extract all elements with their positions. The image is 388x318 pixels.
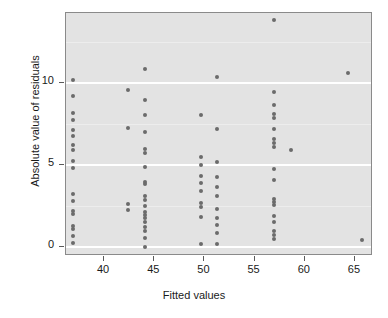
data-point <box>215 194 219 198</box>
x-tick-mark <box>304 256 305 261</box>
y-tick-mark <box>59 82 64 83</box>
data-point <box>143 229 147 233</box>
data-point <box>71 111 75 115</box>
data-point <box>143 204 147 208</box>
gridline-minor <box>66 124 371 125</box>
data-point <box>199 189 203 193</box>
data-point <box>215 216 219 220</box>
y-tick-mark <box>59 164 64 165</box>
data-point <box>71 227 75 231</box>
data-point <box>199 174 203 178</box>
data-point <box>272 145 276 149</box>
data-point <box>71 212 75 216</box>
data-point <box>143 67 147 71</box>
x-tick-label: 60 <box>284 263 324 275</box>
data-point <box>199 113 203 117</box>
data-point <box>143 130 147 134</box>
data-point <box>71 234 75 238</box>
data-point <box>272 103 276 107</box>
gridline-major <box>66 82 371 84</box>
data-point <box>126 208 130 212</box>
data-point <box>143 225 147 229</box>
data-point <box>143 151 147 155</box>
data-point <box>71 118 75 122</box>
x-tick-label: 50 <box>183 263 223 275</box>
data-point <box>215 185 219 189</box>
data-point <box>143 198 147 202</box>
data-point <box>71 241 75 245</box>
data-point <box>71 199 75 203</box>
data-point <box>289 148 293 152</box>
gridline-minor <box>66 42 371 43</box>
data-point <box>143 245 147 249</box>
gridline-major <box>66 246 371 248</box>
data-point <box>215 231 219 235</box>
data-point <box>71 134 75 138</box>
x-axis-label: Fitted values <box>0 289 388 301</box>
x-tick-mark <box>153 256 154 261</box>
data-point <box>71 143 75 147</box>
data-point <box>199 163 203 167</box>
x-tick-label: 55 <box>234 263 274 275</box>
data-point <box>71 148 75 152</box>
data-point <box>215 127 219 131</box>
x-tick-mark <box>203 256 204 261</box>
data-point <box>71 192 75 196</box>
data-point <box>215 207 219 211</box>
gridline-major <box>66 164 371 166</box>
scatter-plot-figure: 4045505560650510 Fitted values Absolute … <box>0 0 388 318</box>
data-point <box>272 127 276 131</box>
x-tick-mark <box>354 256 355 261</box>
data-point <box>126 126 130 130</box>
plot-panel <box>65 12 372 255</box>
data-point <box>272 18 276 22</box>
data-point <box>272 116 276 120</box>
data-point <box>199 181 203 185</box>
data-point <box>143 236 147 240</box>
data-point <box>71 94 75 98</box>
data-point <box>71 128 75 132</box>
data-point <box>272 90 276 94</box>
data-point <box>272 178 276 182</box>
y-axis-label: Absolute value of residuals <box>29 1 41 241</box>
data-point <box>346 71 350 75</box>
data-point <box>143 165 147 169</box>
data-point <box>272 214 276 218</box>
data-point <box>215 75 219 79</box>
data-point <box>71 159 75 163</box>
x-tick-label: 45 <box>133 263 173 275</box>
data-point <box>272 167 276 171</box>
data-point <box>272 220 276 224</box>
data-point <box>71 166 75 170</box>
data-point <box>143 98 147 102</box>
data-point <box>215 223 219 227</box>
x-tick-mark <box>103 256 104 261</box>
data-point <box>272 203 276 207</box>
data-point <box>215 175 219 179</box>
data-point <box>272 237 276 241</box>
x-tick-label: 40 <box>83 263 123 275</box>
data-point <box>360 238 364 242</box>
data-point <box>199 205 203 209</box>
x-tick-label: 65 <box>334 263 374 275</box>
y-tick-mark <box>59 246 64 247</box>
data-point <box>126 88 130 92</box>
data-point <box>143 220 147 224</box>
x-tick-mark <box>254 256 255 261</box>
data-point <box>199 155 203 159</box>
data-point <box>199 215 203 219</box>
data-point <box>143 182 147 186</box>
data-point <box>143 113 147 117</box>
